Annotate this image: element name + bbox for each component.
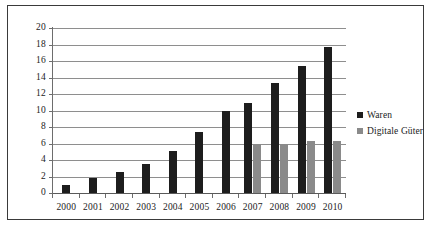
chart-figure: 02468101214161820 2000200120022003200420… — [0, 0, 437, 236]
legend-item: Digitale Güter — [357, 123, 427, 139]
x-tick-mark — [52, 194, 53, 198]
bar-waren-2005 — [195, 132, 203, 193]
y-tick-mark-8 — [49, 127, 53, 128]
y-axis-tick-label: 8 — [22, 122, 46, 132]
bar-waren-2004 — [169, 151, 177, 193]
x-axis-line — [52, 193, 346, 194]
legend-swatch-icon — [357, 112, 363, 118]
x-tick-mark — [105, 194, 106, 198]
bar-digitale-guter-2010 — [333, 141, 341, 193]
chart-frame: 02468101214161820 2000200120022003200420… — [7, 5, 424, 220]
y-tick-mark-16 — [49, 61, 53, 62]
y-axis-tick-label: 14 — [22, 73, 46, 83]
x-tick-mark — [132, 194, 133, 198]
bar-group — [160, 28, 187, 193]
x-tick-mark — [292, 194, 293, 198]
bar-digitale-guter-2009 — [307, 141, 315, 193]
y-tick-mark-12 — [49, 94, 53, 95]
bar-waren-2009 — [298, 66, 306, 193]
bar-group — [266, 28, 293, 193]
bar-waren-2006 — [222, 111, 230, 194]
x-tick-mark — [185, 194, 186, 198]
plot-area — [53, 28, 346, 193]
legend-label: Digitale Güter — [367, 126, 423, 136]
y-axis-tick-label: 10 — [22, 106, 46, 116]
bar-group — [186, 28, 213, 193]
x-tick-mark — [79, 194, 80, 198]
y-axis-tick-label: 20 — [22, 23, 46, 33]
bar-group — [319, 28, 346, 193]
bar-group — [53, 28, 80, 193]
bar-digitale-guter-2008 — [280, 144, 288, 193]
bar-waren-2003 — [142, 164, 150, 193]
legend-label: Waren — [367, 110, 392, 120]
x-tick-mark — [159, 194, 160, 198]
y-axis-tick-label: 12 — [22, 89, 46, 99]
x-tick-mark — [345, 194, 346, 198]
bar-digitale-guter-2007 — [253, 144, 261, 193]
bar-group — [106, 28, 133, 193]
y-axis-tick-label: 6 — [22, 139, 46, 149]
bar-waren-2002 — [116, 172, 124, 193]
bar-waren-2001 — [89, 178, 97, 193]
legend-swatch-icon — [357, 128, 363, 134]
y-axis-tick-label: 2 — [22, 172, 46, 182]
y-axis-tick-label: 18 — [22, 40, 46, 50]
y-axis-tick-label: 16 — [22, 56, 46, 66]
x-tick-mark — [212, 194, 213, 198]
x-axis-tick-label: 2010 — [316, 202, 350, 212]
y-axis-labels: 02468101214161820 — [16, 6, 46, 236]
chart-legend: WarenDigitale Güter — [357, 107, 427, 139]
x-tick-mark — [318, 194, 319, 198]
y-tick-mark-20 — [49, 28, 53, 29]
y-tick-mark-4 — [49, 160, 53, 161]
bar-waren-2008 — [271, 83, 279, 193]
x-tick-mark — [238, 194, 239, 198]
bar-group — [239, 28, 266, 193]
y-axis-tick-label: 0 — [22, 188, 46, 198]
bar-waren-2007 — [244, 103, 252, 193]
y-axis-tick-label: 4 — [22, 155, 46, 165]
y-tick-mark-6 — [49, 144, 53, 145]
x-tick-mark — [265, 194, 266, 198]
y-tick-mark-10 — [49, 111, 53, 112]
y-tick-mark-14 — [49, 78, 53, 79]
legend-item: Waren — [357, 107, 427, 123]
bar-waren-2010 — [324, 47, 332, 193]
y-tick-mark-18 — [49, 45, 53, 46]
y-tick-mark-2 — [49, 177, 53, 178]
bar-group — [80, 28, 107, 193]
bar-group — [213, 28, 240, 193]
bar-waren-2000 — [62, 185, 70, 193]
bar-group — [293, 28, 320, 193]
bar-group — [133, 28, 160, 193]
